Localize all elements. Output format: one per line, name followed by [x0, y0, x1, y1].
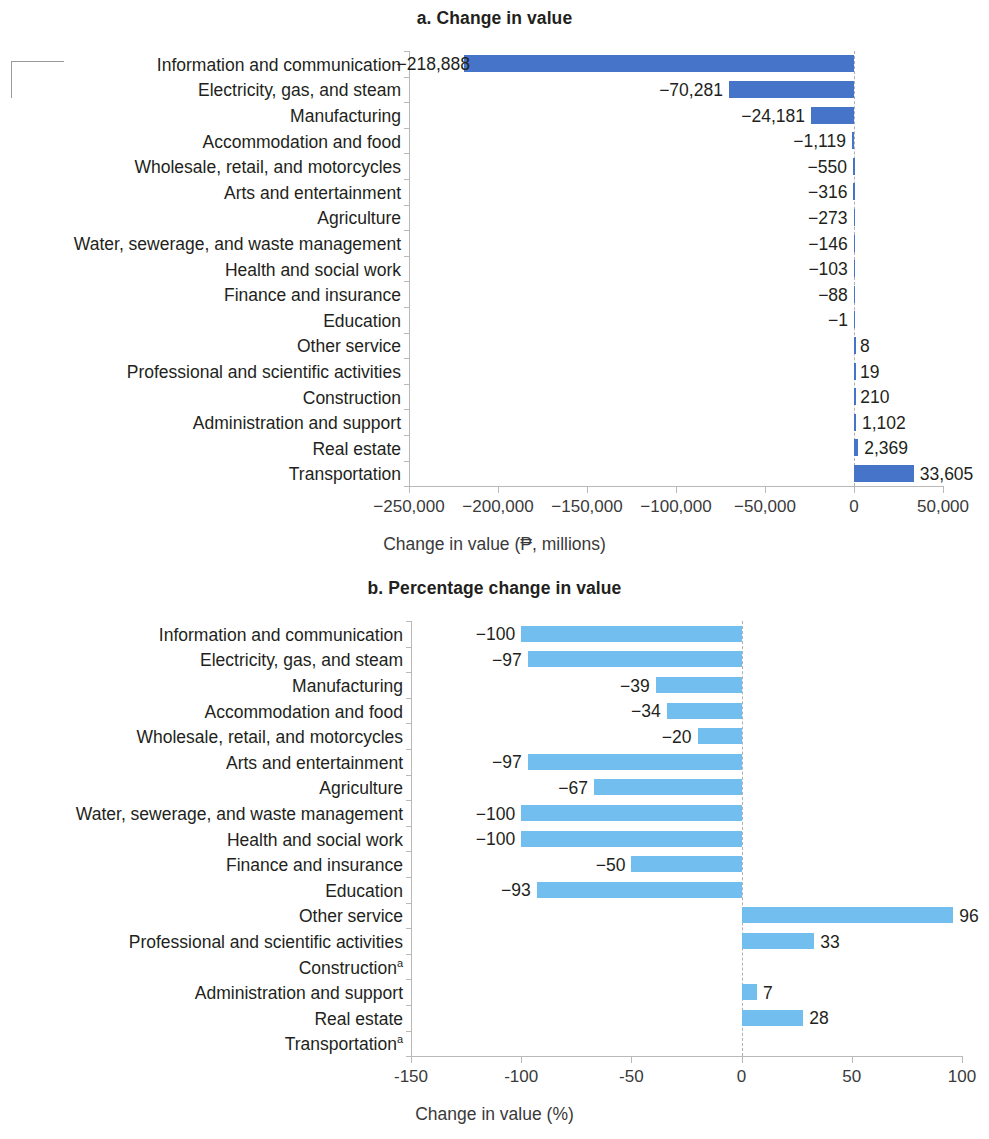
bar [656, 677, 742, 693]
x-axis-tick-label: −200,000 [462, 497, 533, 517]
y-axis-tick [406, 851, 411, 852]
value-label: −34 [631, 703, 661, 721]
bar [854, 337, 856, 354]
y-axis-tick [404, 256, 409, 257]
x-axis-tick-label: -50 [619, 1067, 644, 1087]
x-axis-tick [742, 1056, 743, 1063]
bar [729, 81, 854, 98]
x-axis-line [411, 1056, 963, 1057]
bar [854, 209, 856, 226]
value-label: −70,281 [659, 82, 723, 100]
bar [742, 907, 954, 923]
value-label: −67 [558, 780, 588, 798]
value-label: 33 [820, 934, 839, 952]
x-axis-tick-label: 50 [842, 1067, 861, 1087]
value-label: −24,181 [741, 108, 805, 126]
y-axis-tick [406, 979, 411, 980]
value-label: −20 [662, 729, 692, 747]
value-label: 2,369 [864, 440, 908, 458]
value-label: −103 [808, 261, 847, 279]
y-axis-tick [406, 903, 411, 904]
x-axis-tick [852, 1056, 853, 1063]
value-label: −218,888 [397, 56, 470, 74]
value-label: 96 [959, 908, 978, 926]
y-axis-tick [404, 384, 409, 385]
bar [853, 158, 855, 175]
x-axis-tick-label: 100 [948, 1067, 976, 1087]
bar [854, 286, 856, 303]
x-axis-tick [587, 486, 588, 493]
bar [852, 132, 854, 149]
y-axis-tick [406, 1005, 411, 1006]
y-axis-tick [404, 435, 409, 436]
y-axis-tick [404, 307, 409, 308]
y-axis-tick [406, 749, 411, 750]
value-label: −50 [596, 857, 626, 875]
value-label: 33,605 [920, 466, 974, 484]
bar [854, 414, 856, 431]
value-label: −316 [808, 184, 847, 202]
y-axis-tick [404, 102, 409, 103]
bar [464, 55, 854, 72]
bar [698, 728, 742, 744]
bar [854, 388, 856, 405]
x-axis-title: Change in value (₱, millions) [0, 534, 989, 555]
bar [667, 703, 742, 719]
x-axis-tick-label: -150 [394, 1067, 428, 1087]
bar [521, 805, 741, 821]
panel-a-title: a. Change in value [0, 0, 989, 29]
y-axis-line [411, 621, 412, 1056]
bar [854, 311, 856, 328]
y-axis-tick [404, 461, 409, 462]
y-axis-tick [406, 621, 411, 622]
bar [742, 984, 757, 1000]
chart-a: Information and communicationElectricity… [0, 29, 989, 596]
y-axis-tick [404, 153, 409, 154]
y-axis-tick [404, 179, 409, 180]
x-axis-tick [411, 1056, 412, 1063]
value-label: 210 [860, 389, 889, 407]
x-axis-tick [631, 1056, 632, 1063]
panel-b-title: b. Percentage change in value [0, 570, 989, 599]
bar [528, 651, 742, 667]
y-axis-tick [406, 1031, 411, 1032]
value-label: −550 [808, 159, 847, 177]
y-axis-tick [406, 723, 411, 724]
plot-area: −218,888−70,281−24,181−1,119−550−316−273… [0, 51, 989, 526]
value-label: 28 [809, 1010, 828, 1028]
y-axis-tick [406, 800, 411, 801]
value-label: 1,102 [862, 415, 906, 433]
y-axis-tick [404, 51, 409, 52]
y-axis-tick [406, 698, 411, 699]
bar [854, 260, 856, 277]
bar [537, 882, 742, 898]
value-label: −100 [476, 806, 515, 824]
y-axis-tick [404, 409, 409, 410]
x-axis-tick [409, 486, 410, 493]
chart-b: Information and communicationElectricity… [0, 599, 989, 1139]
value-label: −146 [808, 236, 847, 254]
x-axis-tick [962, 1056, 963, 1063]
y-axis-tick [406, 826, 411, 827]
bar [594, 779, 742, 795]
value-label: −88 [818, 287, 848, 305]
value-label: 7 [763, 985, 773, 1003]
value-label: −1 [828, 312, 848, 330]
x-axis-tick-label: −150,000 [551, 497, 622, 517]
bar [811, 107, 854, 124]
bar [742, 933, 815, 949]
y-axis-tick [406, 877, 411, 878]
y-axis-tick [404, 358, 409, 359]
x-axis-tick-label: 0 [849, 497, 858, 517]
value-label: −100 [476, 626, 515, 644]
x-axis-tick-label: -100 [504, 1067, 538, 1087]
y-axis-tick [406, 647, 411, 648]
y-axis-tick [406, 928, 411, 929]
value-label: −97 [492, 754, 522, 772]
x-axis-tick-label: 50,000 [917, 497, 969, 517]
y-axis-line [409, 51, 410, 486]
y-axis-tick [406, 954, 411, 955]
bar [854, 465, 914, 482]
x-axis-tick [943, 486, 944, 493]
y-axis-tick [406, 775, 411, 776]
